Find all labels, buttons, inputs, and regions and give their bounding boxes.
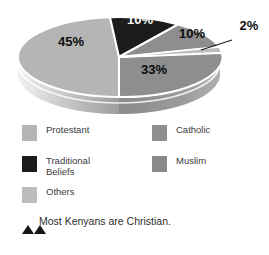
legend-swatch-muslim — [152, 156, 167, 172]
footnote-text: Most Kenyans are Christian. — [39, 215, 171, 227]
legend-item-traditional-beliefs[interactable]: Traditional Beliefs — [22, 155, 90, 175]
up-triangle-icon — [22, 208, 36, 227]
pie-chart-figure: 45% 33% 10% 10% 2% Protestant Traditiona… — [0, 0, 269, 255]
pie-svg: 45% 33% 10% 10% 2% — [0, 0, 269, 122]
legend-swatch-protestant — [22, 125, 37, 141]
legend-label-catholic: Catholic — [176, 124, 210, 136]
legend-label-protestant: Protestant — [46, 124, 89, 136]
legend-column-right: Catholic Muslim — [152, 124, 210, 186]
slice-value-traditional-beliefs: 10% — [127, 12, 153, 27]
slice-value-muslim: 10% — [179, 26, 205, 41]
legend-label-muslim: Muslim — [176, 155, 206, 167]
legend-item-catholic[interactable]: Catholic — [152, 124, 210, 144]
chart-legend: Protestant Traditional Beliefs Others Ca… — [0, 124, 269, 208]
slice-value-others: 2% — [240, 18, 259, 33]
pie-chart-graphic: 45% 33% 10% 10% 2% — [0, 0, 269, 122]
legend-label-others: Others — [46, 186, 75, 198]
legend-item-others[interactable]: Others — [22, 186, 90, 206]
legend-item-muslim[interactable]: Muslim — [152, 155, 210, 175]
slice-value-protestant: 45% — [58, 34, 84, 49]
legend-swatch-catholic — [152, 125, 167, 141]
chart-footnote: Most Kenyans are Christian. — [22, 208, 262, 227]
slice-value-catholic: 33% — [141, 62, 167, 77]
legend-item-protestant[interactable]: Protestant — [22, 124, 90, 144]
legend-label-traditional-beliefs: Traditional Beliefs — [46, 155, 90, 177]
legend-swatch-others — [22, 187, 37, 203]
legend-column-left: Protestant Traditional Beliefs Others — [22, 124, 90, 217]
legend-swatch-traditional-beliefs — [22, 156, 37, 172]
